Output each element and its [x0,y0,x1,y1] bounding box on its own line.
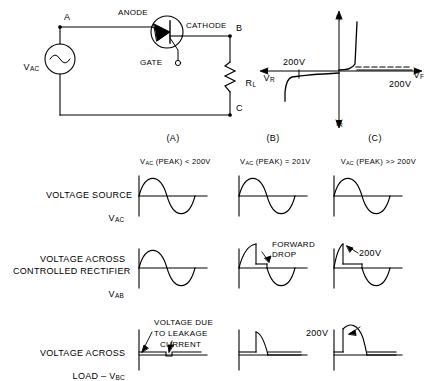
gate-label: GATE [140,58,162,67]
scr-anode-triangle [154,24,170,41]
node-c-dot [229,114,232,117]
neg-half-r2b [267,268,295,286]
node-b-dot [229,35,232,38]
node-c-label: C [236,103,243,113]
row-label-rectifier-line2: VAB [103,279,124,299]
load-label-sub: L [252,81,256,88]
forward-characteristic-curve [339,22,357,70]
column-condition-b-sub: AC [245,160,253,166]
leakage-label-line1: VOLTAGE DUE [154,318,213,327]
vf-axis-label-sub: F [420,73,424,80]
row-label-rectifier-line1b: CONTROLLED RECTIFIER [13,266,131,276]
column-tag-a: (A) [167,133,180,143]
node-a-dot [59,26,62,29]
row-label-load-sub: BC [116,374,125,381]
row-label-source-sub: AC [115,216,124,223]
column-tag-b: (B) [267,133,280,143]
rise-r2c [334,244,343,268]
ir-axis-label: IR [331,110,343,128]
decay-r3b [256,332,268,355]
column-condition-a-sub: AC [145,160,153,166]
row-label-source-line1: VOLTAGE SOURCE [46,190,132,200]
ir-axis-label-sub: R [339,122,343,128]
source-label-sub: AC [30,65,39,72]
gate-terminal-dot [175,60,180,65]
source-label: VAC [18,52,39,72]
vr-axis-label: VR [258,63,275,83]
cathode-label: CATHODE [186,21,227,30]
column-condition-a-rest: (PEAK) < 200V [153,157,210,166]
if-axis-label-sub: F [339,16,343,22]
row-label-rectifier-line1: VOLTAGE ACROSS [40,254,125,264]
if-axis-label: IF [331,4,342,22]
node-a-label: A [64,12,70,22]
waveform-cell-source-B [239,176,307,216]
leader-leakage-1-arrow [142,345,148,352]
waveform-cell-source-A [139,176,207,216]
column-condition-b: VAC (PEAK) = 201V [235,148,310,166]
leakage-label-line2: TO LEAKAGE [154,329,208,338]
vr-axis-label-sub: R [270,76,275,83]
column-condition-c-rest: (PEAK) >> 200V [354,157,416,166]
anode-label: ANODE [118,8,148,17]
leakage-label-line3: CURRENT [160,340,201,349]
row-label-load-v: LOAD – V [73,371,116,381]
forward-drop-label-line2: DROP [272,250,296,259]
waveform-cell-load-B [239,330,307,370]
reverse-characteristic-curve [285,73,339,101]
waveform-cell-source-C [334,176,402,216]
forward-breakover-label: 200V [389,79,411,89]
peak-200v-rectifier-label: 200V [359,248,381,258]
row-label-load-line1: VOLTAGE ACROSS [40,348,125,358]
column-tag-c: (C) [368,133,381,143]
column-condition-c-sub: AC [346,160,354,166]
node-b-label: B [236,23,242,33]
row-label-rectifier-sub: AB [115,292,124,299]
row-label-source-line2: VAC [103,203,124,223]
neg-half-r2c [362,268,390,286]
row-label-load-line2: LOAD – VBC [67,361,125,381]
waveform-cell-load-C [334,325,402,370]
load-resistor-symbol [225,62,235,92]
column-condition-b-rest: (PEAK) = 201V [253,157,310,166]
rise-r2b [239,244,256,268]
column-condition-c: VAC (PEAK) >> 200V [336,148,416,166]
load-label: RL [240,68,256,88]
reverse-breakdown-label: 200V [283,57,305,67]
forward-drop-label-line1: FORWARD [272,240,315,249]
leader-200v-load-arrow [349,330,356,335]
peak-200v-load-label: 200V [306,328,328,338]
ac-source-sine [50,55,70,63]
waveform-cell-rectifier-A [139,249,207,288]
leader-200v-rect-arrow [347,246,353,252]
waveform-row-source [139,176,402,216]
column-condition-a: VAC (PEAK) < 200V [135,148,210,166]
vf-axis-label: VF [408,60,424,80]
scr-gate-lead [170,38,178,60]
